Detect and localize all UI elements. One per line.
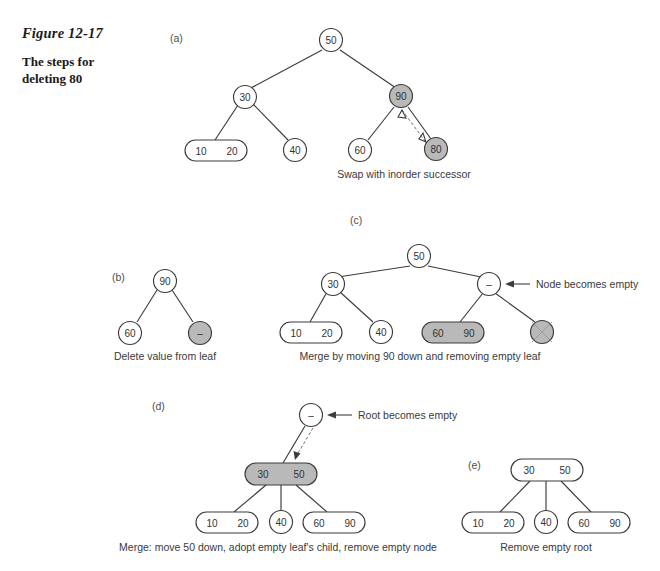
svg-text:60: 60 — [578, 518, 590, 529]
figure-container: Figure 12-17 The steps for deleting 80 (… — [0, 0, 660, 571]
svg-text:10: 10 — [195, 146, 207, 157]
svg-text:40: 40 — [540, 517, 552, 528]
svg-text:10: 10 — [206, 518, 218, 529]
svg-text:50: 50 — [413, 251, 425, 262]
svg-text:10: 10 — [290, 328, 302, 339]
panel-a-caption: Swap with inorder successor — [337, 168, 471, 180]
svg-text:–: – — [308, 410, 314, 421]
edge-e-root-6090 — [561, 481, 591, 512]
svg-text:Root becomes empty: Root becomes empty — [358, 409, 458, 421]
svg-text:90: 90 — [159, 276, 171, 287]
leaf-c-40: 40 — [370, 321, 393, 344]
svg-text:–: – — [197, 328, 203, 339]
node-root-50: 50 — [320, 29, 343, 52]
svg-text:40: 40 — [289, 145, 301, 156]
edge-c-50-empty — [428, 266, 481, 277]
node-c-30: 30 — [322, 273, 345, 296]
svg-text:60: 60 — [124, 328, 136, 339]
svg-text:20: 20 — [226, 146, 238, 157]
figure-diagram: (a) 50 30 — [0, 0, 660, 571]
svg-text:50: 50 — [325, 35, 337, 46]
leaf-e-10-20: 10 20 — [462, 512, 524, 533]
svg-text:20: 20 — [503, 518, 515, 529]
svg-text:90: 90 — [609, 518, 621, 529]
node-root-90: 90 — [154, 270, 177, 293]
panel-d-caption: Merge: move 50 down, adopt empty leaf's … — [119, 541, 437, 553]
edge-d-3050-1020 — [234, 485, 266, 512]
panel-c: (c) 50 30 – 10 20 — [280, 214, 639, 362]
leaf-c-60-90-shaded: 60 90 — [422, 322, 484, 343]
panel-e-letter: (e) — [468, 459, 481, 471]
arrowhead-icon — [294, 451, 301, 460]
svg-text:90: 90 — [395, 91, 407, 102]
leaf-60b: 60 — [119, 322, 142, 345]
panel-a-letter: (a) — [170, 32, 183, 44]
svg-text:90: 90 — [463, 328, 475, 339]
svg-text:10: 10 — [472, 518, 484, 529]
svg-text:–: – — [486, 279, 492, 290]
leaf-e-60-90: 60 90 — [568, 512, 630, 533]
panel-c-caption: Merge by moving 90 down and removing emp… — [299, 350, 540, 362]
svg-text:60: 60 — [354, 145, 366, 156]
node-d-30-50-shaded: 30 50 — [245, 463, 317, 485]
leaf-d-60-90: 60 90 — [303, 512, 365, 533]
leaf-e-40: 40 — [535, 511, 558, 534]
root-becomes-empty-arrow — [294, 428, 314, 460]
node-becomes-empty-annotation: Node becomes empty — [505, 278, 639, 290]
svg-text:Node becomes empty: Node becomes empty — [536, 278, 639, 290]
svg-text:80: 80 — [430, 144, 442, 155]
leaf-c-removed-crossed — [531, 321, 554, 344]
leaf-d-10-20: 10 20 — [196, 512, 258, 533]
edge-c-30-40 — [340, 292, 373, 322]
svg-text:40: 40 — [375, 327, 387, 338]
node-c-empty: – — [478, 273, 501, 296]
panel-a: (a) 50 30 — [170, 29, 471, 181]
panel-d: (d) – Root becomes empty 30 50 — [119, 400, 458, 553]
node-e-root-30-50: 30 50 — [511, 459, 583, 481]
svg-text:30: 30 — [327, 279, 339, 290]
svg-text:50: 50 — [293, 469, 305, 480]
svg-text:40: 40 — [275, 517, 287, 528]
leaf-10-20: 10 20 — [185, 140, 247, 161]
svg-text:20: 20 — [321, 328, 333, 339]
arrowhead-icon — [505, 281, 514, 288]
svg-text:30: 30 — [523, 465, 535, 476]
leaf-60: 60 — [349, 139, 372, 162]
edge-c-empty-6090 — [460, 293, 483, 322]
node-d-root-empty: – — [300, 404, 323, 427]
leaf-d-40: 40 — [270, 511, 293, 534]
node-c-root-50: 50 — [408, 245, 431, 268]
edge-90-60 — [368, 107, 394, 140]
panel-b-caption: Delete value from leaf — [114, 350, 216, 362]
edge-50-30 — [249, 50, 322, 89]
svg-text:60: 60 — [432, 328, 444, 339]
leaf-80-shaded: 80 — [425, 138, 448, 161]
panel-b: (b) 90 60 – Delete value from leaf — [112, 270, 216, 363]
edge-d-3050-6090 — [296, 485, 327, 512]
panel-e: (e) 30 50 10 20 40 60 90 — [462, 459, 630, 553]
panel-e-caption: Remove empty root — [500, 541, 592, 553]
svg-text:30: 30 — [239, 92, 251, 103]
edge-30-40 — [253, 104, 288, 140]
leaf-c-10-20: 10 20 — [280, 322, 342, 343]
leaf-empty-shaded: – — [189, 322, 212, 345]
arrowhead-icon — [327, 412, 336, 419]
edge-d-empty-3050 — [283, 426, 305, 463]
node-90-shaded: 90 — [390, 85, 413, 108]
edge-c-empty-removed — [495, 293, 535, 322]
svg-text:20: 20 — [237, 518, 249, 529]
svg-text:90: 90 — [344, 518, 356, 529]
root-becomes-empty-annotation: Root becomes empty — [327, 409, 458, 421]
panel-d-letter: (d) — [152, 400, 165, 412]
node-30: 30 — [234, 86, 257, 109]
edge-c-50-30 — [338, 266, 410, 277]
edge-50-90 — [340, 50, 396, 88]
edge-c-30-1020 — [310, 292, 327, 322]
edge-30-1020 — [215, 105, 238, 140]
leaf-40: 40 — [284, 139, 307, 162]
panel-c-letter: (c) — [350, 214, 362, 226]
svg-text:30: 30 — [257, 469, 269, 480]
edge-90-60b — [137, 290, 157, 322]
edge-e-root-1020 — [500, 481, 530, 512]
panel-b-letter: (b) — [112, 271, 125, 283]
